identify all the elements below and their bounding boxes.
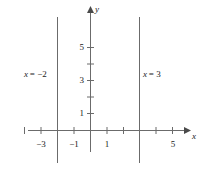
y-tick-label-1: 1 (74, 109, 84, 118)
x-tick-label-pos1: 1 (101, 140, 113, 149)
equation-label-right: x = 3 (143, 70, 161, 79)
equation-left-variable: x (24, 69, 28, 79)
y-tick-label-5: 5 (74, 43, 84, 52)
y-tick-label-3: 3 (74, 76, 84, 85)
equation-label-left: x = −2 (24, 70, 47, 79)
graph-figure: y x −3 −1 1 5 1 3 5 x = −2 x = 3 (0, 0, 201, 172)
x-tick-label-neg1: −1 (67, 140, 81, 149)
equation-right-variable: x (143, 69, 147, 79)
y-axis-arrowhead (87, 6, 94, 13)
equation-right-value: = 3 (149, 69, 161, 79)
equation-left-value: = −2 (30, 69, 47, 79)
x-tick-label-neg3: −3 (34, 140, 48, 149)
y-axis-label: y (95, 5, 99, 14)
x-tick-label-pos5: 5 (167, 140, 179, 149)
x-axis-label: x (192, 132, 196, 141)
x-axis-arrowhead (184, 127, 191, 134)
